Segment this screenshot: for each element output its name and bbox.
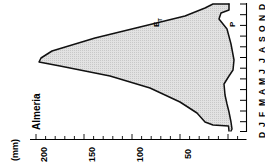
month-label-12: D <box>258 131 265 137</box>
month-axis-ticks <box>240 4 247 132</box>
chart-plot-area <box>0 0 265 165</box>
month-label-0: D <box>258 4 265 10</box>
et-main-letter: E <box>152 22 161 27</box>
month-label-8: A <box>258 89 265 95</box>
month-label-7: M <box>258 77 265 84</box>
month-label-11: J <box>258 122 265 127</box>
month-label-6: J <box>258 69 265 74</box>
value-label-100: 100 <box>136 147 145 162</box>
climate-diagram-figure: D N O S A J J M A M F J D 200 150 100 50… <box>0 0 265 165</box>
value-label-150: 150 <box>88 147 97 162</box>
month-label-5: J <box>258 58 265 63</box>
month-label-2: O <box>258 25 265 32</box>
precipitation-curve-label: P <box>229 22 237 27</box>
month-label-4: A <box>258 46 265 52</box>
month-label-10: F <box>258 111 265 116</box>
value-axis-minor-ticks <box>36 134 238 140</box>
month-label-1: N <box>258 14 265 20</box>
et-subscript: T <box>157 18 163 22</box>
value-label-200: 200 <box>40 147 49 162</box>
month-label-3: S <box>258 36 265 42</box>
value-label-50: 50 <box>184 149 193 159</box>
station-name-label: Almeria <box>32 93 42 130</box>
value-axis-unit-label: (mm) <box>11 139 20 161</box>
evapotranspiration-curve-label: ET <box>153 18 163 27</box>
month-label-9: M <box>258 99 265 106</box>
